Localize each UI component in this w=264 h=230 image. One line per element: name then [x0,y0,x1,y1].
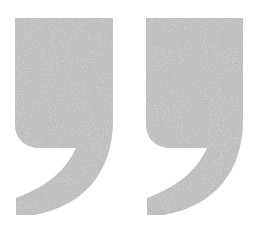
quotation-marks-graphic [0,0,264,230]
image-canvas [0,0,264,230]
